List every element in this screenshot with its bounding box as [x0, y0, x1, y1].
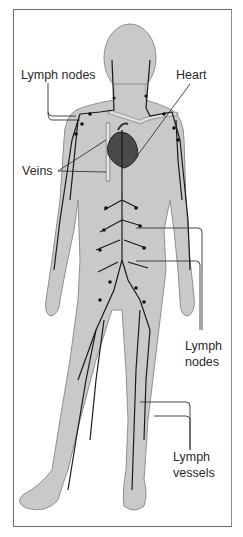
label-lymph-nodes-upper: Lymph nodes: [21, 68, 96, 83]
label-veins: Veins: [22, 164, 53, 179]
label-lymph-nodes-lower-line2: nodes: [185, 355, 219, 370]
label-lymph-nodes-lower-line1: Lymph: [185, 339, 222, 354]
label-lymph-vessels-line2: vessels: [173, 466, 215, 481]
label-lymph-vessels-line1: Lymph: [173, 450, 210, 465]
label-heart: Heart: [176, 68, 207, 83]
